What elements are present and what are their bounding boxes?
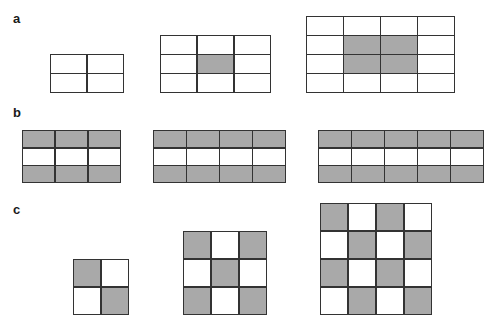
empty-cell bbox=[235, 74, 270, 92]
empty-cell bbox=[385, 149, 417, 165]
empty-cell bbox=[321, 232, 347, 258]
shaded-cell bbox=[23, 166, 54, 182]
empty-cell bbox=[307, 17, 343, 35]
empty-cell bbox=[74, 288, 100, 314]
shaded-cell bbox=[23, 131, 54, 147]
empty-cell bbox=[212, 288, 238, 314]
grid-c-1 bbox=[73, 259, 129, 315]
grid-a-1 bbox=[50, 54, 124, 93]
shaded-cell bbox=[220, 166, 252, 182]
empty-cell bbox=[89, 149, 120, 165]
grid-a-2 bbox=[160, 35, 271, 93]
empty-cell bbox=[307, 74, 343, 92]
empty-cell bbox=[198, 36, 233, 54]
empty-cell bbox=[418, 149, 450, 165]
shaded-cell bbox=[187, 131, 219, 147]
shaded-cell bbox=[405, 288, 431, 314]
empty-cell bbox=[418, 74, 454, 92]
empty-cell bbox=[88, 55, 123, 73]
shaded-cell bbox=[321, 204, 347, 230]
empty-cell bbox=[307, 36, 343, 54]
shaded-cell bbox=[377, 204, 403, 230]
empty-cell bbox=[88, 74, 123, 92]
shaded-cell bbox=[451, 166, 483, 182]
shaded-cell bbox=[56, 166, 87, 182]
empty-cell bbox=[418, 17, 454, 35]
panel-label-a: a bbox=[13, 12, 20, 25]
empty-cell bbox=[349, 260, 375, 286]
shaded-cell bbox=[344, 36, 380, 54]
empty-cell bbox=[23, 149, 54, 165]
shaded-cell bbox=[385, 166, 417, 182]
shaded-cell bbox=[220, 131, 252, 147]
shaded-cell bbox=[89, 166, 120, 182]
empty-cell bbox=[451, 149, 483, 165]
panel-label-b: b bbox=[13, 106, 21, 119]
shaded-cell bbox=[102, 288, 128, 314]
shaded-cell bbox=[381, 55, 417, 73]
empty-cell bbox=[321, 288, 347, 314]
empty-cell bbox=[184, 260, 210, 286]
shaded-cell bbox=[418, 166, 450, 182]
empty-cell bbox=[56, 149, 87, 165]
empty-cell bbox=[349, 204, 375, 230]
empty-cell bbox=[235, 36, 270, 54]
shaded-cell bbox=[349, 288, 375, 314]
shaded-cell bbox=[352, 166, 384, 182]
shaded-cell bbox=[321, 260, 347, 286]
empty-cell bbox=[405, 204, 431, 230]
shaded-cell bbox=[198, 55, 233, 73]
shaded-cell bbox=[184, 288, 210, 314]
grid-b-1 bbox=[22, 130, 121, 183]
shaded-cell bbox=[56, 131, 87, 147]
shaded-cell bbox=[253, 131, 285, 147]
shaded-cell bbox=[352, 131, 384, 147]
shaded-cell bbox=[418, 131, 450, 147]
empty-cell bbox=[212, 232, 238, 258]
shaded-cell bbox=[187, 166, 219, 182]
shaded-cell bbox=[184, 232, 210, 258]
empty-cell bbox=[344, 74, 380, 92]
empty-cell bbox=[377, 288, 403, 314]
empty-cell bbox=[220, 149, 252, 165]
shaded-cell bbox=[212, 260, 238, 286]
shaded-cell bbox=[377, 260, 403, 286]
shaded-cell bbox=[240, 288, 266, 314]
empty-cell bbox=[240, 260, 266, 286]
shaded-cell bbox=[253, 166, 285, 182]
shaded-cell bbox=[240, 232, 266, 258]
shaded-cell bbox=[154, 131, 186, 147]
empty-cell bbox=[187, 149, 219, 165]
empty-cell bbox=[51, 74, 86, 92]
shaded-cell bbox=[74, 260, 100, 286]
shaded-cell bbox=[319, 131, 351, 147]
grid-a-3 bbox=[306, 16, 455, 93]
grid-b-3 bbox=[318, 130, 484, 183]
grid-c-3 bbox=[320, 203, 432, 315]
shaded-cell bbox=[405, 232, 431, 258]
shaded-cell bbox=[154, 166, 186, 182]
empty-cell bbox=[352, 149, 384, 165]
grid-c-2 bbox=[183, 231, 267, 315]
shaded-cell bbox=[344, 55, 380, 73]
empty-cell bbox=[319, 149, 351, 165]
shaded-cell bbox=[89, 131, 120, 147]
empty-cell bbox=[161, 74, 196, 92]
empty-cell bbox=[198, 74, 233, 92]
empty-cell bbox=[381, 74, 417, 92]
empty-cell bbox=[381, 17, 417, 35]
empty-cell bbox=[102, 260, 128, 286]
grid-b-2 bbox=[153, 130, 286, 183]
panel-label-c: c bbox=[13, 203, 20, 216]
shaded-cell bbox=[349, 232, 375, 258]
empty-cell bbox=[377, 232, 403, 258]
empty-cell bbox=[161, 55, 196, 73]
empty-cell bbox=[418, 36, 454, 54]
empty-cell bbox=[405, 260, 431, 286]
empty-cell bbox=[154, 149, 186, 165]
empty-cell bbox=[51, 55, 86, 73]
shaded-cell bbox=[381, 36, 417, 54]
shaded-cell bbox=[319, 166, 351, 182]
empty-cell bbox=[344, 17, 380, 35]
empty-cell bbox=[235, 55, 270, 73]
